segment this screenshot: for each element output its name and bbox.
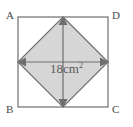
- vertex-label-a: A: [6, 10, 14, 21]
- vertex-label-d: D: [112, 10, 120, 21]
- area-annotation: 18cm2: [0, 62, 133, 76]
- geometry-figure: A D B C 18cm2: [0, 0, 133, 127]
- area-unit-exponent: 2: [79, 61, 83, 70]
- area-unit: cm: [63, 61, 79, 76]
- vertex-label-b: B: [6, 104, 13, 115]
- area-value: 18: [50, 61, 63, 76]
- vertex-label-c: C: [112, 104, 119, 115]
